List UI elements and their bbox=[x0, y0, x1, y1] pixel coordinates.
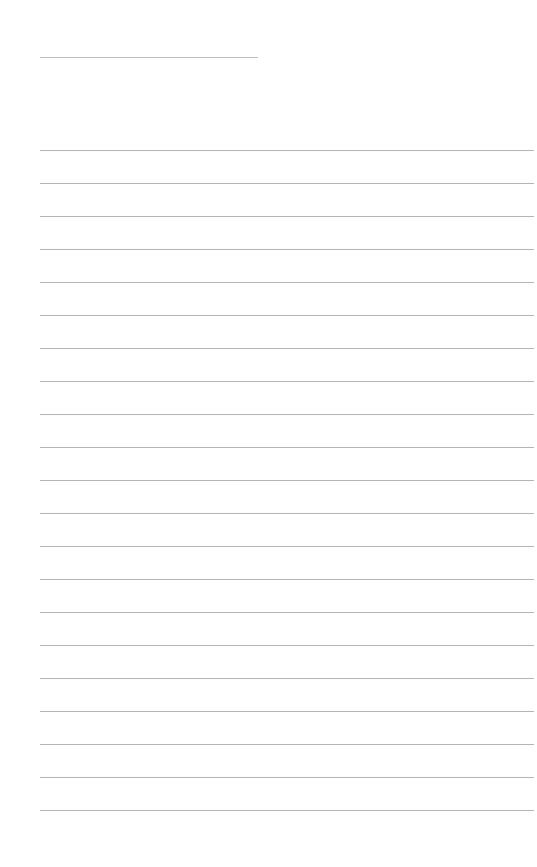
ruled-page bbox=[0, 0, 537, 867]
ruled-line bbox=[40, 249, 534, 250]
ruled-line bbox=[40, 381, 534, 382]
header-rule bbox=[40, 57, 258, 58]
ruled-line bbox=[40, 645, 534, 646]
ruled-line bbox=[40, 414, 534, 415]
ruled-line bbox=[40, 579, 534, 580]
ruled-line bbox=[40, 711, 534, 712]
ruled-line bbox=[40, 150, 534, 151]
ruled-line bbox=[40, 777, 534, 778]
ruled-line bbox=[40, 282, 534, 283]
ruled-line bbox=[40, 315, 534, 316]
ruled-line bbox=[40, 810, 534, 811]
ruled-line bbox=[40, 183, 534, 184]
ruled-line bbox=[40, 546, 534, 547]
ruled-line bbox=[40, 447, 534, 448]
ruled-line bbox=[40, 216, 534, 217]
ruled-line bbox=[40, 348, 534, 349]
ruled-line bbox=[40, 513, 534, 514]
ruled-line bbox=[40, 480, 534, 481]
ruled-line bbox=[40, 744, 534, 745]
ruled-line bbox=[40, 678, 534, 679]
ruled-line bbox=[40, 612, 534, 613]
